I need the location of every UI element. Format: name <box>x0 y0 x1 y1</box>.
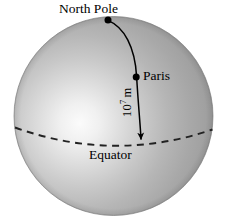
paris-label: Paris <box>143 69 170 83</box>
north-pole-label: North Pole <box>59 2 118 16</box>
sphere-body <box>14 17 213 216</box>
distance-annotation-label: 107m <box>121 88 134 117</box>
north-pole-point <box>105 17 112 24</box>
equator-label: Equator <box>89 148 132 162</box>
sphere-diagram-canvas <box>0 0 227 222</box>
sphere-diagram-figure: North Pole Paris Equator 107m <box>0 0 227 222</box>
paris-point <box>133 74 140 81</box>
distance-exponent: 7 <box>118 100 128 104</box>
distance-unit: m <box>120 88 134 98</box>
distance-mantissa: 10 <box>120 104 134 117</box>
